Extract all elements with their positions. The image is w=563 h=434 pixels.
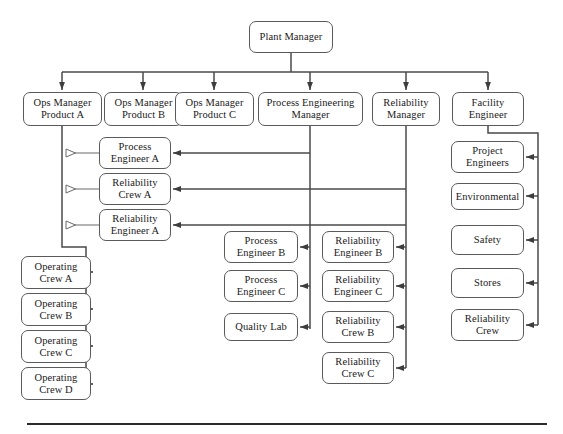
node-label: Process Engineer B: [237, 235, 286, 259]
node-label: Process Engineer C: [237, 274, 286, 298]
node-operating-crew-c[interactable]: Operating Crew C: [21, 330, 91, 363]
node-label: Quality Lab: [235, 321, 287, 333]
node-label: Process Engineering Manager: [267, 97, 355, 121]
node-reliability-engineer-a[interactable]: Reliability Engineer A: [99, 209, 171, 241]
node-label: Stores: [474, 277, 501, 289]
node-label: Ops Manager Product B: [115, 97, 173, 121]
node-facility-engineer[interactable]: Facility Engineer: [452, 92, 524, 126]
node-label: Reliability Manager: [383, 97, 428, 121]
node-reliability-crew-b[interactable]: Reliability Crew B: [322, 311, 394, 343]
node-operating-crew-a[interactable]: Operating Crew A: [21, 256, 91, 289]
node-label: Project Engineers: [466, 145, 509, 169]
node-label: Environmental: [456, 191, 520, 203]
node-label: Ops Manager Product A: [34, 97, 92, 121]
node-project-engineers[interactable]: Project Engineers: [451, 141, 524, 173]
node-ops-manager-product-c[interactable]: Ops Manager Product C: [175, 92, 254, 126]
node-process-engineering-manager[interactable]: Process Engineering Manager: [258, 92, 363, 126]
node-environmental[interactable]: Environmental: [451, 183, 524, 210]
node-label: Reliability Crew C: [335, 356, 380, 380]
node-plant-manager[interactable]: Plant Manager: [249, 21, 333, 53]
node-process-engineer-b[interactable]: Process Engineer B: [224, 231, 298, 263]
node-label: Plant Manager: [260, 31, 323, 43]
node-reliability-crew-facility[interactable]: Reliability Crew: [451, 309, 524, 341]
node-label: Reliability Crew B: [335, 315, 380, 339]
org-chart: Plant Manager Ops Manager Product A Ops …: [0, 0, 563, 434]
node-label: Reliability Crew A: [112, 177, 157, 201]
node-stores[interactable]: Stores: [451, 268, 524, 298]
node-reliability-crew-a[interactable]: Reliability Crew A: [99, 173, 171, 205]
node-label: Safety: [474, 234, 501, 246]
node-label: Operating Crew C: [35, 335, 78, 359]
node-reliability-manager[interactable]: Reliability Manager: [372, 92, 440, 126]
node-safety[interactable]: Safety: [451, 225, 524, 255]
node-ops-manager-product-a[interactable]: Ops Manager Product A: [23, 92, 102, 126]
bottom-divider-rule: [27, 423, 547, 425]
node-label: Operating Crew D: [35, 372, 78, 396]
node-process-engineer-a[interactable]: Process Engineer A: [99, 137, 171, 169]
node-label: Reliability Engineer B: [334, 235, 383, 259]
node-label: Reliability Engineer C: [334, 274, 383, 298]
node-reliability-engineer-c[interactable]: Reliability Engineer C: [322, 270, 394, 302]
node-process-engineer-c[interactable]: Process Engineer C: [224, 270, 298, 302]
node-label: Facility Engineer: [469, 97, 508, 121]
node-label: Reliability Crew: [465, 313, 510, 337]
node-reliability-crew-c[interactable]: Reliability Crew C: [322, 352, 394, 384]
node-quality-lab[interactable]: Quality Lab: [224, 313, 298, 341]
node-label: Operating Crew A: [35, 261, 78, 285]
node-label: Ops Manager Product C: [186, 97, 244, 121]
node-reliability-engineer-b[interactable]: Reliability Engineer B: [322, 231, 394, 263]
node-operating-crew-b[interactable]: Operating Crew B: [21, 293, 91, 326]
node-ops-manager-product-b[interactable]: Ops Manager Product B: [104, 92, 183, 126]
node-label: Process Engineer A: [111, 141, 160, 165]
node-operating-crew-d[interactable]: Operating Crew D: [21, 367, 91, 400]
node-label: Operating Crew B: [35, 298, 78, 322]
node-label: Reliability Engineer A: [111, 213, 160, 237]
